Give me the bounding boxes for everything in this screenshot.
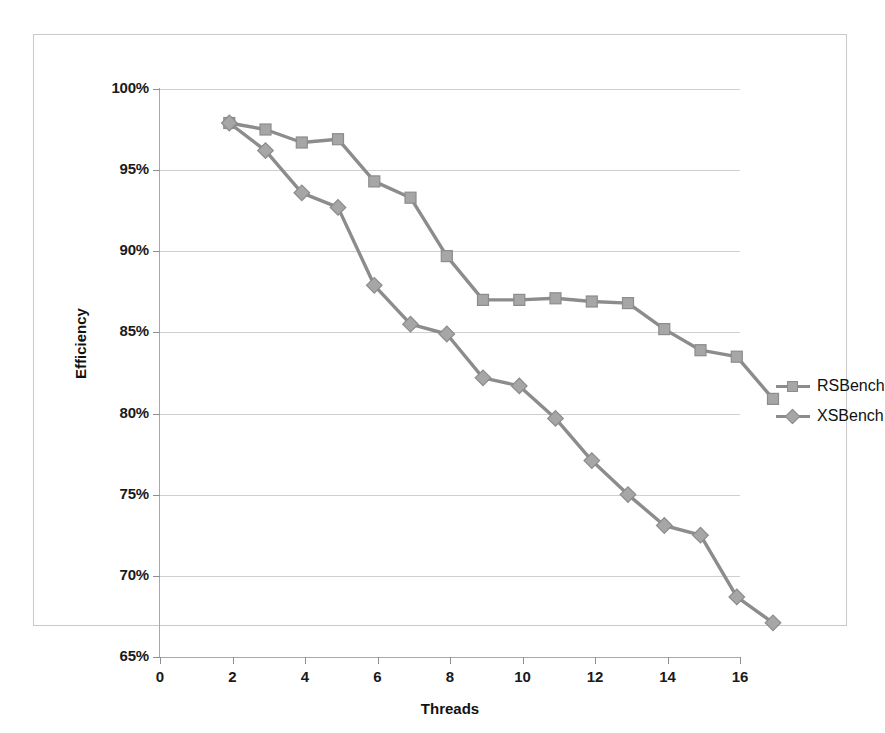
series-xsbench bbox=[222, 115, 781, 630]
data-point-marker bbox=[623, 298, 634, 309]
data-point-marker bbox=[659, 324, 670, 335]
legend-label-xsbench: XSBench bbox=[817, 407, 884, 425]
data-point-marker bbox=[330, 200, 346, 216]
data-point-marker bbox=[296, 137, 307, 148]
chart-frame: 65%70%75%80%85%90%95%100% 0246810121416 … bbox=[33, 34, 847, 626]
chart-legend: RSBench XSBench bbox=[776, 371, 885, 431]
data-point-marker bbox=[405, 192, 416, 203]
series-line bbox=[229, 123, 773, 399]
data-point-marker bbox=[586, 296, 597, 307]
data-point-marker bbox=[260, 124, 271, 135]
diamond-marker-icon bbox=[776, 409, 810, 423]
legend-item-rsbench[interactable]: RSBench bbox=[776, 371, 885, 401]
data-series-layer bbox=[34, 35, 885, 733]
data-point-marker bbox=[478, 294, 489, 305]
series-line bbox=[229, 123, 773, 623]
data-point-marker bbox=[514, 294, 525, 305]
legend-item-xsbench[interactable]: XSBench bbox=[776, 401, 885, 431]
legend-label-rsbench: RSBench bbox=[817, 377, 885, 395]
data-point-marker bbox=[731, 351, 742, 362]
data-point-marker bbox=[550, 293, 561, 304]
chart-page: 65%70%75%80%85%90%95%100% 0246810121416 … bbox=[0, 0, 885, 733]
data-point-marker bbox=[369, 176, 380, 187]
data-point-marker bbox=[693, 527, 709, 543]
data-point-marker bbox=[695, 345, 706, 356]
series-rsbench bbox=[224, 118, 779, 405]
square-marker-icon bbox=[776, 379, 810, 393]
data-point-marker bbox=[441, 251, 452, 262]
data-point-marker bbox=[333, 134, 344, 145]
